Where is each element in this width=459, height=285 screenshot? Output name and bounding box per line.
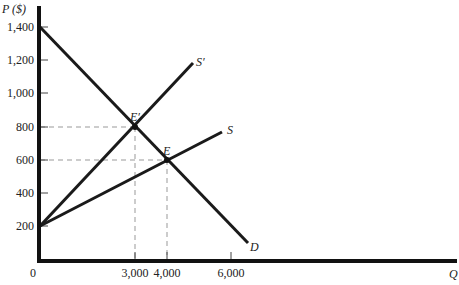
y-axis-label: P ($) [1,2,26,16]
supply-curve-s [40,132,222,226]
y-tick-label-400: 400 [16,186,34,200]
y-tick-label-200: 200 [16,219,34,233]
supply-label-s-prime: S′ [196,55,205,69]
y-tick-label-600: 600 [16,153,34,167]
point-label-e-prime: E′ [129,110,140,124]
x-tick-label-6000: 6,000 [218,266,245,280]
x-axis-label: Q [449,267,458,281]
y-tick-label-1000: 1,000 [7,86,34,100]
supply-demand-chart: P ($) 1,400 1,200 1,000 800 600 400 200 … [0,0,459,285]
demand-label: D [249,240,259,254]
equilibrium-point-e-prime [132,124,138,130]
x-ticks [135,252,231,260]
y-tick-label-1200: 1,200 [7,53,34,67]
supply-label-s: S [227,123,233,137]
x-tick-label-3000: 3,000 [122,266,149,280]
y-tick-label-1400: 1,400 [7,20,34,34]
origin-label: 0 [30,266,36,280]
x-tick-label-4000: 4,000 [154,266,181,280]
point-label-e: E [162,144,171,158]
y-ticks [40,27,48,226]
y-tick-label-800: 800 [16,120,34,134]
